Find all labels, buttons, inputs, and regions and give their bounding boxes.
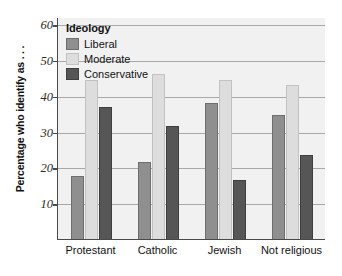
y-axis-tick-label: 20 [27,161,53,176]
bar-group [192,18,259,239]
legend-title: Ideology [66,22,178,34]
legend-item-moderate: Moderate [66,51,178,66]
y-axis-tick-label: 10 [27,197,53,212]
legend-label: Moderate [84,53,130,65]
legend-item-conservative: Conservative [66,66,178,81]
bar-liberal [138,162,151,239]
legend-swatch-liberal [66,38,79,50]
bar-conservative [166,126,179,239]
x-axis-tick-label: Jewish [208,244,242,256]
bar-moderate [152,74,165,239]
x-axis-tick-label: Not religious [261,244,322,256]
bar-conservative [99,107,112,239]
bar-chart: Percentage who identify as . . . 1020304… [0,0,342,276]
legend-swatch-moderate [66,53,79,65]
bar-moderate [219,80,232,239]
bar-liberal [205,103,218,239]
x-axis-tick-label: Protestant [65,244,115,256]
legend-label: Conservative [84,68,148,80]
legend: Ideology LiberalModerateConservative [66,22,178,81]
y-axis-tick-label: 30 [27,125,53,140]
bar-liberal [272,115,285,239]
legend-item-liberal: Liberal [66,36,178,51]
y-axis-title: Percentage who identify as . . . [14,6,26,232]
bar-conservative [300,155,313,239]
legend-swatch-conservative [66,68,79,80]
bar-conservative [233,180,246,239]
y-axis-tick-label: 60 [27,18,53,33]
y-axis-tick-label: 50 [27,53,53,68]
legend-entries: LiberalModerateConservative [66,36,178,81]
y-axis-tick-label: 40 [27,89,53,104]
bar-liberal [71,176,84,239]
bar-moderate [85,80,98,239]
bar-group [259,18,326,239]
bar-moderate [286,85,299,239]
x-axis-tick-label: Catholic [138,244,178,256]
legend-label: Liberal [84,38,117,50]
